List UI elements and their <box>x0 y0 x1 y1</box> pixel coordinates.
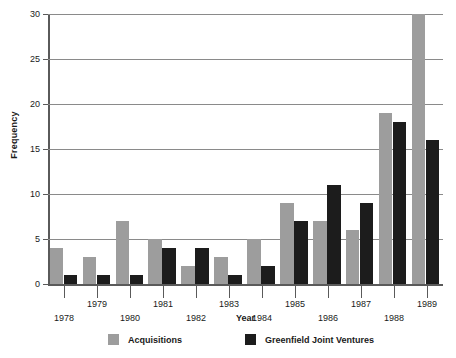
bar <box>346 230 360 284</box>
y-tick-label: 20 <box>30 99 40 109</box>
bar <box>313 221 327 284</box>
legend-swatch <box>245 334 256 345</box>
x-tick-mark <box>196 286 197 298</box>
bar <box>280 203 294 284</box>
bar <box>247 239 261 284</box>
bar <box>294 221 308 284</box>
x-tick-label: 1983 <box>219 299 239 309</box>
y-tick-label: 25 <box>30 54 40 64</box>
bar <box>130 275 144 284</box>
legend-label: Greenfield Joint Ventures <box>265 335 374 345</box>
x-tick-mark <box>427 286 428 298</box>
x-tick-mark <box>295 286 296 298</box>
x-tick-mark <box>64 286 65 298</box>
bar <box>261 266 275 284</box>
y-tick-label: 15 <box>30 144 40 154</box>
x-tick-label: 1987 <box>351 299 371 309</box>
y-tick-label: 10 <box>30 189 40 199</box>
x-tick-mark <box>328 286 329 298</box>
x-tick-mark <box>361 286 362 298</box>
y-tick-label: 5 <box>35 234 40 244</box>
bars-layer <box>48 14 443 284</box>
bar <box>195 248 209 284</box>
bar <box>97 275 111 284</box>
legend-item: Acquisitions <box>108 334 182 345</box>
bar <box>162 248 176 284</box>
bar <box>181 266 195 284</box>
y-tick-mark <box>43 284 48 285</box>
bar <box>228 275 242 284</box>
x-tick-label: 1985 <box>285 299 305 309</box>
legend-swatch <box>108 334 119 345</box>
y-axis-title: Frequency <box>9 100 19 170</box>
bar <box>50 248 64 284</box>
bar <box>214 257 228 284</box>
x-tick-label: 1979 <box>87 299 107 309</box>
bar <box>64 275 78 284</box>
y-tick-label: 30 <box>30 9 40 19</box>
x-axis-line <box>48 284 443 286</box>
bar-chart: Frequency 302520151050 19781979198019811… <box>0 0 456 358</box>
x-tick-mark <box>394 286 395 298</box>
x-tick-mark <box>130 286 131 298</box>
bar <box>412 14 426 284</box>
x-tick-mark <box>229 286 230 298</box>
bar <box>148 239 162 284</box>
bar <box>393 122 407 284</box>
legend-label: Acquisitions <box>128 335 182 345</box>
chart-legend: AcquisitionsGreenfield Joint Ventures <box>0 334 456 354</box>
x-axis-title: Year <box>48 313 443 323</box>
x-tick-mark <box>97 286 98 298</box>
bar <box>360 203 374 284</box>
plot-area: 302520151050 197819791980198119821983198… <box>48 14 443 284</box>
y-tick-label: 0 <box>35 279 40 289</box>
x-tick-mark <box>163 286 164 298</box>
bar <box>116 221 130 284</box>
bar <box>426 140 440 284</box>
legend-item: Greenfield Joint Ventures <box>245 334 374 345</box>
bar <box>379 113 393 284</box>
bar <box>83 257 97 284</box>
bar <box>327 185 341 284</box>
x-tick-label: 1989 <box>417 299 437 309</box>
x-tick-mark <box>262 286 263 298</box>
x-tick-label: 1981 <box>153 299 173 309</box>
